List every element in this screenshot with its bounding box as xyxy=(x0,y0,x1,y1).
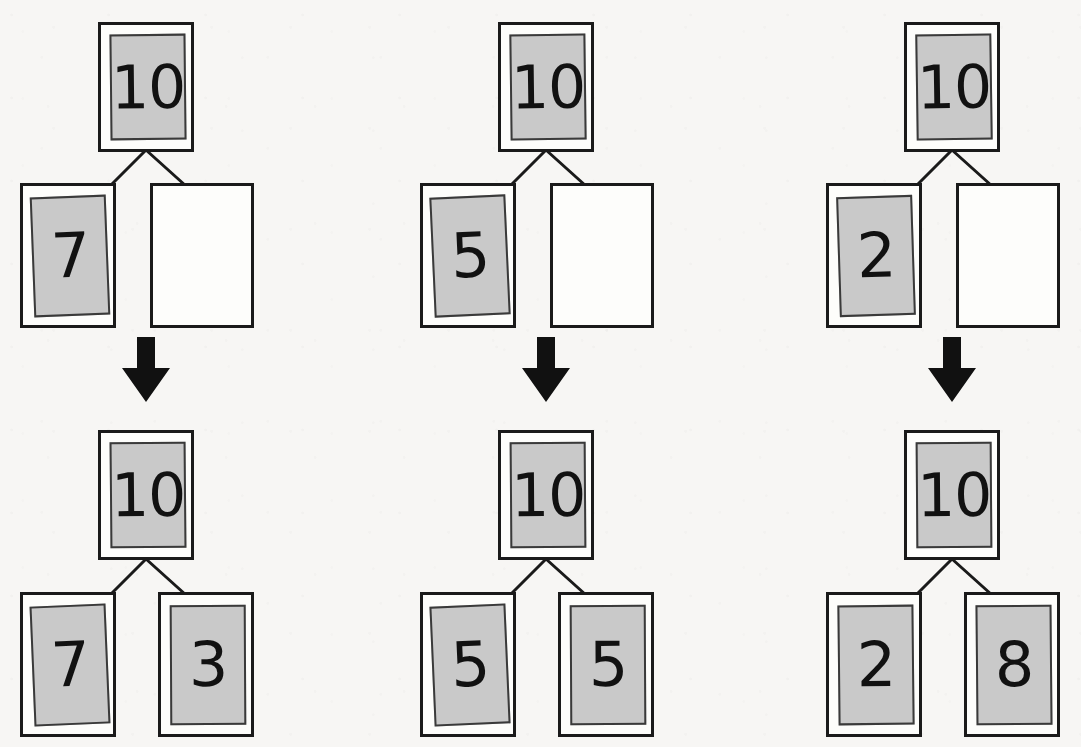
connector-group-col2-after xyxy=(510,559,586,595)
node-card-col1-after-right: 3 xyxy=(170,605,247,725)
node-col1-before-right[interactable] xyxy=(150,183,254,328)
node-value-col2-after-left: 5 xyxy=(450,633,491,697)
node-card-col1-before-root: 10 xyxy=(109,34,186,141)
node-col2-before-right[interactable] xyxy=(550,183,654,328)
node-card-col3-after-root: 10 xyxy=(916,442,993,549)
node-col2-before-left[interactable]: 5 xyxy=(420,183,516,328)
down-arrow-col3 xyxy=(928,337,976,402)
node-value-col3-after-root: 10 xyxy=(917,465,991,526)
node-col3-before-root[interactable]: 10 xyxy=(904,22,1000,152)
node-card-col2-after-left: 5 xyxy=(429,603,510,726)
node-card-col1-before-left: 7 xyxy=(30,195,111,318)
node-card-col3-before-left: 2 xyxy=(836,195,916,317)
connector-group-col1-before xyxy=(110,150,186,186)
node-col2-after-right[interactable]: 5 xyxy=(558,592,654,737)
node-card-col2-before-root: 10 xyxy=(509,34,586,141)
node-value-col2-after-root: 10 xyxy=(511,465,585,526)
node-value-col1-after-left: 7 xyxy=(50,633,91,697)
node-value-col2-before-root: 10 xyxy=(511,57,586,118)
node-card-col2-after-right: 5 xyxy=(570,605,647,725)
node-value-col3-after-left: 2 xyxy=(857,634,896,696)
node-col3-before-left[interactable]: 2 xyxy=(826,183,922,328)
node-col3-after-right[interactable]: 8 xyxy=(964,592,1060,737)
node-card-col3-after-right: 8 xyxy=(975,605,1052,726)
node-card-col3-before-root: 10 xyxy=(915,33,992,140)
node-value-col1-before-root: 10 xyxy=(111,57,186,118)
node-value-col2-before-left: 5 xyxy=(450,224,491,288)
node-col2-after-root[interactable]: 10 xyxy=(498,430,594,560)
node-value-col3-before-root: 10 xyxy=(917,56,992,117)
connector-group-col1-after xyxy=(110,559,186,595)
node-col2-before-root[interactable]: 10 xyxy=(498,22,594,152)
down-arrow-col2 xyxy=(522,337,570,402)
down-arrow-col1 xyxy=(122,337,170,402)
node-col3-before-right[interactable] xyxy=(956,183,1060,328)
node-col1-before-root[interactable]: 10 xyxy=(98,22,194,152)
node-value-col3-before-left: 2 xyxy=(856,224,896,287)
node-value-col2-after-right: 5 xyxy=(589,634,628,696)
connector-group-col3-after xyxy=(916,559,992,595)
node-col1-after-left[interactable]: 7 xyxy=(20,592,116,737)
node-value-col3-after-right: 8 xyxy=(995,634,1034,696)
node-col1-after-root[interactable]: 10 xyxy=(98,430,194,560)
node-col3-after-root[interactable]: 10 xyxy=(904,430,1000,560)
node-card-col1-after-left: 7 xyxy=(30,603,111,726)
connector-group-col3-before xyxy=(916,150,992,186)
node-col3-after-left[interactable]: 2 xyxy=(826,592,922,737)
diagram-canvas: 10 7 10 7 3 10 5 xyxy=(0,0,1081,747)
node-card-col3-after-left: 2 xyxy=(837,605,914,726)
node-col2-after-left[interactable]: 5 xyxy=(420,592,516,737)
node-value-col1-after-root: 10 xyxy=(111,465,185,526)
connector-group-col2-before xyxy=(510,150,586,186)
node-col1-before-left[interactable]: 7 xyxy=(20,183,116,328)
node-col1-after-right[interactable]: 3 xyxy=(158,592,254,737)
node-value-col1-after-right: 3 xyxy=(189,634,228,696)
node-card-col2-after-root: 10 xyxy=(510,442,587,549)
node-card-col2-before-left: 5 xyxy=(429,194,510,317)
node-card-col1-after-root: 10 xyxy=(110,442,187,549)
node-value-col1-before-left: 7 xyxy=(50,224,91,287)
